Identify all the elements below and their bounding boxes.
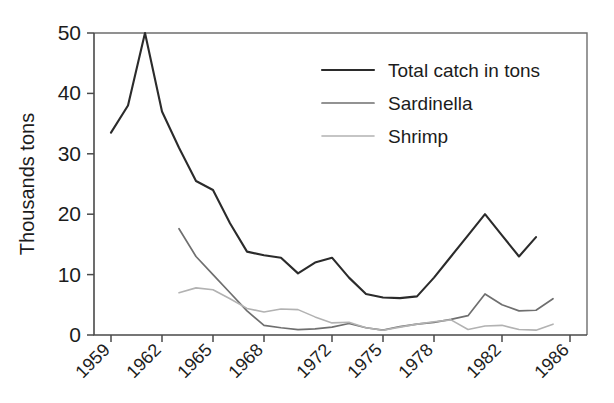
x-tick-label: 1982 bbox=[462, 340, 504, 382]
line-chart: 0102030405019591962196519681972197519781… bbox=[0, 0, 614, 403]
y-tick-label: 0 bbox=[69, 323, 81, 346]
y-tick-label: 30 bbox=[58, 142, 81, 165]
legend-label-total-catch-in-tons: Total catch in tons bbox=[388, 60, 540, 81]
x-tick-label: 1975 bbox=[343, 340, 385, 382]
chart-figure: 0102030405019591962196519681972197519781… bbox=[0, 0, 614, 403]
x-tick-label: 1959 bbox=[71, 340, 113, 382]
y-tick-label: 10 bbox=[58, 263, 81, 286]
x-tick-label: 1972 bbox=[292, 340, 334, 382]
legend-label-shrimp: Shrimp bbox=[388, 126, 448, 147]
x-tick-label: 1978 bbox=[394, 340, 436, 382]
y-axis-title: Thousands tons bbox=[16, 113, 38, 255]
legend-label-sardinella: Sardinella bbox=[388, 93, 473, 114]
x-tick-label: 1965 bbox=[173, 340, 215, 382]
y-tick-label: 40 bbox=[58, 81, 81, 104]
y-tick-label: 20 bbox=[58, 202, 81, 225]
x-tick-label: 1962 bbox=[122, 340, 164, 382]
x-tick-label: 1986 bbox=[530, 340, 572, 382]
x-tick-label: 1968 bbox=[224, 340, 266, 382]
y-tick-label: 50 bbox=[58, 21, 81, 44]
